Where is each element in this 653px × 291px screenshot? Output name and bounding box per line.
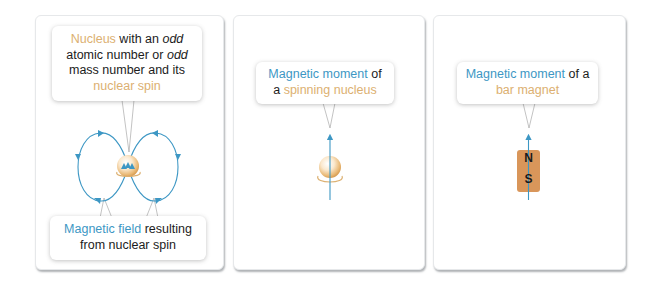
text: with an	[116, 32, 163, 46]
text: atomic number or	[66, 48, 167, 62]
bottom-callout-pointers	[100, 198, 158, 218]
callout-pointer-2	[323, 103, 335, 128]
magnetic-field-callout: Magnetic field resulting from nuclear sp…	[50, 216, 206, 260]
label-nucleus: Nucleus	[71, 32, 116, 46]
text-odd: odd	[167, 48, 188, 62]
nucleus-description-callout: Nucleus with an odd atomic number or odd…	[52, 26, 202, 101]
top-callout-pointer	[122, 100, 134, 152]
label-nuclear-spin: nuclear spin	[93, 79, 160, 93]
spinning-nucleus-callout: Magnetic moment of a spinning nucleus	[256, 62, 394, 104]
text-odd: odd	[162, 32, 183, 46]
callout-pointer-3	[523, 103, 535, 128]
label-magnetic-field: Magnetic field	[64, 222, 141, 236]
magnet-north-label: N	[517, 151, 540, 165]
magnet-south-label: S	[517, 172, 540, 186]
label-magnetic-moment: Magnetic moment	[466, 67, 565, 81]
label-bar-magnet: bar magnet	[496, 83, 559, 97]
text: mass number and its	[69, 63, 185, 77]
nucleus-sphere-1	[117, 155, 141, 177]
label-magnetic-moment: Magnetic moment	[268, 67, 367, 81]
text: of a	[565, 67, 589, 81]
label-spinning-nucleus: spinning nucleus	[284, 83, 377, 97]
bar-magnet-callout: Magnetic moment of a bar magnet	[457, 62, 598, 104]
